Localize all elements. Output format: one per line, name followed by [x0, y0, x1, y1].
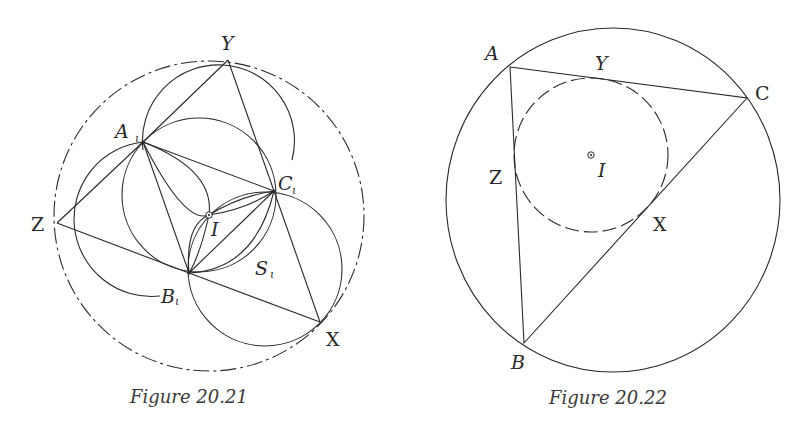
label-Z: Z	[489, 166, 502, 188]
figure-20-21: Y A ι C ι Z B ι I S ι X Figure 20.21	[31, 32, 364, 407]
label-X: X	[326, 328, 340, 350]
label-C: C	[755, 82, 770, 104]
circle-tangent-Z	[74, 142, 160, 296]
circle-tangent-Y	[142, 65, 294, 160]
label-B: B	[510, 351, 525, 373]
label-A: A	[483, 42, 499, 64]
label-B-i: B	[160, 285, 175, 307]
label-Y: Y	[221, 32, 236, 54]
caption-figure-20-21: Figure 20.21	[129, 386, 248, 407]
figure-20-22: A Y C Z I X B Figure 20.22	[446, 28, 780, 408]
label-X: X	[653, 213, 667, 235]
segment-Ai-Ci	[143, 142, 274, 191]
label-C-i-sub: ι	[292, 184, 296, 197]
circumcircle	[446, 28, 780, 372]
label-A-i-sub: ι	[135, 132, 139, 145]
label-B-i-sub: ι	[175, 295, 179, 308]
label-S-i: S	[255, 257, 268, 279]
caption-figure-20-22: Figure 20.22	[548, 387, 667, 408]
triangle-ABC	[510, 67, 747, 343]
figures-canvas: Y A ι C ι Z B ι I S ι X Figure 20.21 A Y…	[0, 0, 800, 427]
label-Y: Y	[595, 52, 610, 74]
label-S-i-sub: ι	[270, 268, 274, 281]
segment-Ai-Bi	[143, 142, 189, 273]
arc-Ai-I-Ci	[143, 142, 274, 216]
label-I: I	[597, 159, 606, 181]
label-C-i: C	[278, 172, 293, 194]
label-Z: Z	[31, 213, 44, 235]
label-A-i: A	[113, 120, 129, 142]
label-I: I	[210, 218, 219, 240]
